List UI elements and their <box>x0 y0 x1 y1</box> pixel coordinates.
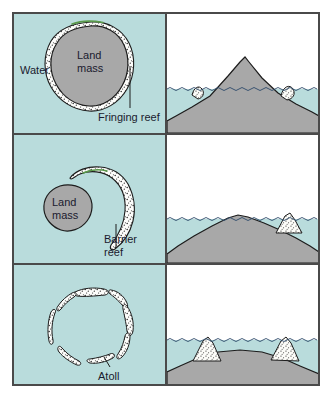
barrier-reef-label-line2: reef <box>104 246 124 258</box>
barrier-map-view <box>13 135 166 263</box>
land-mass-label-line2: mass <box>52 209 79 221</box>
reef-development-figure: Water Land mass Fringing reef <box>0 0 332 397</box>
atoll-map-view <box>13 265 166 385</box>
fringing-cross-section <box>167 13 319 133</box>
land-mass-label-line2: mass <box>77 62 104 74</box>
water-label: Water <box>20 64 49 76</box>
barrier-reef-label-line1: Barrier <box>104 233 137 245</box>
fringing-reef-label: Fringing reef <box>98 111 161 123</box>
land-mass-label-line1: Land <box>77 49 101 61</box>
land-mass-label-line1: Land <box>52 196 76 208</box>
atoll-label: Atoll <box>98 370 119 382</box>
atoll-cross-section <box>167 265 319 385</box>
water-area <box>13 265 166 385</box>
barrier-cross-section <box>167 135 319 263</box>
